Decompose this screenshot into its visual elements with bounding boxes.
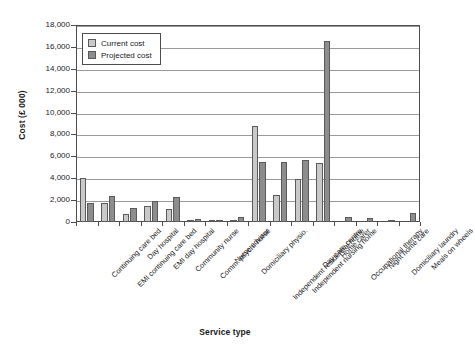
x-tick-mark	[141, 222, 142, 226]
bar-current	[144, 206, 151, 222]
chart-legend: Current cost Projected cost	[82, 33, 161, 65]
bar-projected	[173, 197, 180, 222]
x-tick-mark	[205, 222, 206, 226]
x-axis-title: Service type	[0, 327, 450, 337]
y-tick-label: 10,000	[24, 109, 70, 117]
bar-group	[399, 25, 421, 222]
bar-projected	[410, 213, 417, 222]
bar-group	[291, 25, 313, 222]
bar-projected	[130, 208, 137, 222]
x-tick-mark	[270, 222, 271, 226]
bar-group	[248, 25, 270, 222]
x-tick-mark	[98, 222, 99, 226]
bar-projected	[216, 220, 223, 222]
x-tick-mark	[162, 222, 163, 226]
bar-projected	[388, 220, 395, 222]
bar-projected	[195, 219, 202, 222]
y-tick-label: 14,000	[24, 65, 70, 73]
legend-item-current: Current cost	[88, 37, 152, 49]
bar-projected	[109, 196, 116, 222]
bar-group	[334, 25, 356, 222]
bar-current	[295, 179, 302, 222]
y-tick-label: 4,000	[24, 174, 70, 182]
bar-projected	[259, 162, 266, 222]
x-tick-mark	[377, 222, 378, 226]
bar-projected	[281, 162, 288, 222]
bar-current	[80, 178, 87, 222]
bar-group	[377, 25, 399, 222]
bar-current	[187, 220, 194, 222]
bar-group	[184, 25, 206, 222]
bar-projected	[345, 217, 352, 222]
bar-projected	[87, 203, 94, 222]
x-tick-mark	[248, 222, 249, 226]
x-tick-mark	[334, 222, 335, 226]
bar-current	[273, 195, 280, 222]
bar-projected	[152, 201, 159, 222]
bar-group	[313, 25, 335, 222]
bar-current	[166, 209, 173, 222]
bar-current	[316, 163, 323, 222]
x-tick-mark	[356, 222, 357, 226]
y-tick-label: 6,000	[24, 152, 70, 160]
y-tick-label: 8,000	[24, 130, 70, 138]
bar-current	[252, 126, 259, 222]
bar-current	[123, 214, 130, 222]
bar-projected	[238, 217, 245, 222]
x-tick-mark	[227, 222, 228, 226]
bar-projected	[302, 160, 309, 222]
y-tick-label: 18,000	[24, 21, 70, 29]
x-tick-mark	[119, 222, 120, 226]
y-tick-label: 16,000	[24, 43, 70, 51]
bar-group	[205, 25, 227, 222]
bar-group	[270, 25, 292, 222]
y-tick-label: 12,000	[24, 87, 70, 95]
y-tick-label: 0	[24, 218, 70, 226]
legend-swatch-projected-icon	[88, 51, 96, 59]
x-tick-mark	[313, 222, 314, 226]
bar-current	[101, 203, 108, 222]
x-tick-mark	[184, 222, 185, 226]
bar-group	[162, 25, 184, 222]
bar-current	[230, 220, 237, 222]
legend-item-projected: Projected cost	[88, 49, 152, 61]
x-tick-mark	[420, 222, 421, 226]
x-tick-mark	[399, 222, 400, 226]
y-tick-label: 2,000	[24, 196, 70, 204]
bar-projected	[367, 218, 374, 222]
legend-swatch-current-icon	[88, 39, 96, 47]
legend-label-projected: Projected cost	[101, 51, 152, 60]
x-tick-mark	[76, 222, 77, 226]
bar-group	[227, 25, 249, 222]
bar-group	[356, 25, 378, 222]
bar-current	[209, 220, 216, 222]
legend-label-current: Current cost	[101, 39, 145, 48]
bar-projected	[324, 41, 331, 222]
x-tick-mark	[291, 222, 292, 226]
